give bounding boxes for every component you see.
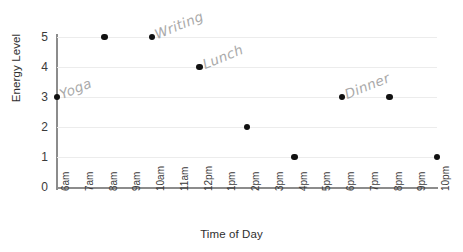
x-tick-label: 12pm bbox=[204, 147, 214, 191]
x-tick-label: 9am bbox=[132, 147, 142, 191]
x-tick-label: 10pm bbox=[441, 147, 451, 191]
x-tick-label: 7pm bbox=[370, 147, 380, 191]
gridline bbox=[57, 97, 437, 98]
x-tick-label: 6am bbox=[61, 147, 71, 191]
x-tick-label: 7am bbox=[85, 147, 95, 191]
x-tick-label: 3pm bbox=[275, 147, 285, 191]
x-tick-label: 4pm bbox=[299, 147, 309, 191]
x-tick-label: 2pm bbox=[251, 147, 261, 191]
y-tick-label: 5 bbox=[26, 31, 48, 43]
x-tick-label: 5pm bbox=[322, 147, 332, 191]
y-tick-label: 2 bbox=[26, 121, 48, 133]
x-tick-label: 6pm bbox=[346, 147, 356, 191]
x-tick-label: 1pm bbox=[227, 147, 237, 191]
y-tick-label: 4 bbox=[26, 61, 48, 73]
x-tick-label: 8pm bbox=[394, 147, 404, 191]
data-point bbox=[101, 34, 108, 41]
y-axis-title: Energy Level bbox=[10, 8, 22, 128]
y-tick-label: 1 bbox=[26, 151, 48, 163]
gridline bbox=[57, 37, 437, 38]
y-tick-label: 3 bbox=[26, 91, 48, 103]
x-tick-label: 10am bbox=[156, 147, 166, 191]
data-point bbox=[386, 94, 393, 101]
x-tick-label: 8am bbox=[109, 147, 119, 191]
data-point bbox=[291, 154, 298, 161]
data-point bbox=[244, 124, 251, 131]
energy-level-scatter-chart: Energy Level 012345 YogaWritingLunchDinn… bbox=[0, 0, 463, 252]
x-tick-label: 11am bbox=[180, 147, 190, 191]
data-point bbox=[434, 154, 441, 161]
y-tick-label: 0 bbox=[26, 181, 48, 193]
gridline bbox=[57, 67, 437, 68]
x-axis-title: Time of Day bbox=[0, 228, 463, 240]
x-tick-label: 9pm bbox=[417, 147, 427, 191]
data-point bbox=[196, 64, 203, 71]
